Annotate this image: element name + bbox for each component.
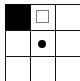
cell-2-1[interactable] <box>31 57 56 81</box>
cell-1-0[interactable] <box>6 31 31 57</box>
cell-0-1[interactable] <box>31 5 56 31</box>
cell-0-0-filled[interactable] <box>5 4 30 30</box>
dot-icon <box>38 40 46 48</box>
cell-2-2[interactable] <box>56 57 80 81</box>
game-board <box>0 0 80 81</box>
cell-2-0[interactable] <box>6 57 31 81</box>
cell-1-2[interactable] <box>56 31 80 57</box>
cell-1-1[interactable] <box>31 31 56 57</box>
hollow-square-icon <box>36 10 49 23</box>
cell-0-2[interactable] <box>56 5 80 31</box>
